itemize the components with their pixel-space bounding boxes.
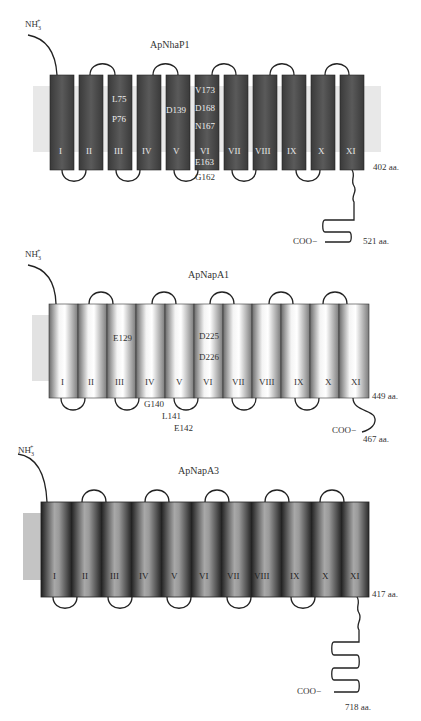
- helix-label: II: [82, 571, 88, 581]
- c-length-label: 467 aa.: [363, 434, 389, 444]
- helix-label: VII: [227, 571, 240, 581]
- helix-label: III: [114, 146, 123, 156]
- helix-label: II: [86, 146, 92, 156]
- n-terminus-label: NH3+: [18, 444, 33, 457]
- length-label: 449 aa.: [372, 391, 398, 401]
- length-label: 402 aa.: [373, 162, 399, 172]
- helix-label: VI: [199, 571, 209, 581]
- helix-label: VI: [203, 377, 213, 387]
- c-length-label: 718 aa.: [345, 702, 371, 712]
- residue-label: N167: [195, 121, 215, 131]
- n-terminus-label: NH3+: [25, 18, 40, 31]
- residue-label: G140: [144, 399, 164, 409]
- helix-label: XI: [351, 377, 361, 387]
- residue-label: D225: [199, 331, 219, 341]
- helix-label: V: [176, 377, 183, 387]
- panel-title: ApNapA1: [188, 269, 229, 280]
- helix-label: V: [171, 571, 178, 581]
- helix-label: XI: [350, 571, 360, 581]
- panel-title: ApNhaP1: [150, 39, 189, 50]
- figure-labels: NH3+ ApNhaP1 I II III IV V VI VII VIII I…: [0, 0, 421, 721]
- residue-label: D168: [195, 103, 215, 113]
- helix-label: VII: [228, 146, 241, 156]
- residue-label: D226: [199, 352, 219, 362]
- residue-label: E142: [174, 423, 193, 433]
- helix-label: II: [88, 377, 94, 387]
- helix-label: III: [110, 571, 119, 581]
- residue-label: L141: [162, 411, 181, 421]
- residue-label: V173: [195, 85, 215, 95]
- c-terminus-label: COO−: [293, 236, 317, 246]
- helix-label: III: [115, 377, 124, 387]
- helix-label: IX: [287, 146, 297, 156]
- residue-label: P76: [112, 114, 126, 124]
- helix-label: X: [318, 146, 325, 156]
- n-terminus-label: NH3+: [25, 248, 40, 261]
- helix-label: IX: [290, 571, 300, 581]
- residue-label: E163: [195, 157, 214, 167]
- residue-label: D139: [166, 105, 186, 115]
- residue-label: G162: [195, 172, 215, 182]
- helix-label: VII: [232, 377, 245, 387]
- helix-label: V: [173, 146, 180, 156]
- c-terminus-label: COO−: [332, 425, 356, 435]
- helix-label: I: [61, 377, 64, 387]
- helix-label: VIII: [259, 377, 275, 387]
- helix-label: I: [59, 146, 62, 156]
- c-terminus-label: COO−: [297, 686, 321, 696]
- c-length-label: 521 aa.: [363, 236, 389, 246]
- length-label: 417 aa.: [372, 589, 398, 599]
- helix-label: IV: [142, 146, 152, 156]
- helix-label: X: [325, 377, 332, 387]
- residue-label: L75: [112, 94, 127, 104]
- helix-label: VIII: [254, 571, 270, 581]
- helix-label: IV: [145, 377, 155, 387]
- helix-label: IX: [294, 377, 304, 387]
- helix-label: IV: [139, 571, 149, 581]
- helix-label: I: [53, 571, 56, 581]
- helix-label: VI: [200, 146, 210, 156]
- helix-label: VIII: [255, 146, 271, 156]
- helix-label: X: [322, 571, 329, 581]
- residue-label: E129: [113, 333, 132, 343]
- panel-title: ApNapA3: [178, 465, 219, 476]
- helix-label: XI: [346, 146, 356, 156]
